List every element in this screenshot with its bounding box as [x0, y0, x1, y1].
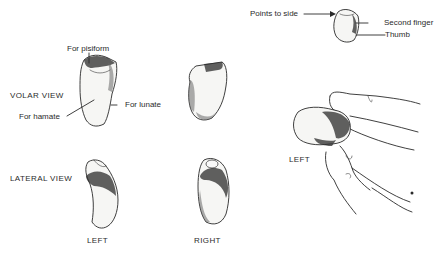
- label-for-pisiform: For pisiform: [67, 45, 109, 53]
- label-volar-view: VOLAR VIEW: [10, 92, 64, 100]
- label-for-lunate: For lunate: [125, 101, 161, 109]
- bone-volar-left: [80, 55, 117, 126]
- label-second-finger: Second finger: [384, 19, 433, 27]
- label-thumb: Thumb: [385, 31, 410, 39]
- label-points-to-side: Points to side: [250, 10, 298, 18]
- arrow-points-to-side: [304, 11, 336, 17]
- bone-lateral-right: [198, 158, 229, 223]
- bone-lateral-left: [86, 160, 118, 228]
- diagram-artwork: [0, 0, 444, 258]
- label-left-hand: LEFT: [289, 156, 310, 164]
- bone-orientation: [334, 9, 359, 42]
- label-lateral-view: LATERAL VIEW: [10, 175, 72, 183]
- bone-volar-right: [189, 62, 227, 120]
- label-right-bottom: RIGHT: [194, 237, 221, 245]
- label-left-bottom: LEFT: [87, 237, 108, 245]
- label-for-hamate: For hamate: [19, 113, 60, 121]
- hand-illustration: [294, 92, 421, 214]
